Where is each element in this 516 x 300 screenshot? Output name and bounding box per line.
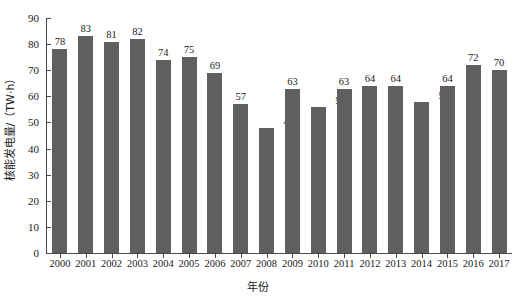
x-tick-label: 2014 xyxy=(411,258,432,269)
y-tick-mark xyxy=(47,44,51,45)
bar-value-label: 78 xyxy=(55,36,66,47)
bar-group: 63 xyxy=(285,18,300,253)
x-tick-label: 2012 xyxy=(359,258,380,269)
bar-group: 57 xyxy=(233,18,248,253)
y-tick-label: 20 xyxy=(28,195,39,207)
x-tick-mark xyxy=(447,254,448,258)
x-tick-mark xyxy=(86,254,87,258)
x-axis-spine xyxy=(46,253,512,254)
bar-value-label: 74 xyxy=(158,47,169,58)
bar-value-label: 70 xyxy=(494,57,505,68)
y-tick-label: 30 xyxy=(28,169,39,181)
bar-group: 74 xyxy=(156,18,171,253)
y-tick-label: 60 xyxy=(28,90,39,102)
bar-group: 81 xyxy=(104,18,119,253)
bar-value-label: 64 xyxy=(365,73,376,84)
x-tick-label: 2013 xyxy=(385,258,406,269)
bar-group: 70 xyxy=(492,18,507,253)
bar[interactable] xyxy=(285,89,300,254)
y-tick-mark xyxy=(47,201,51,202)
bar-value-label: 72 xyxy=(468,52,479,63)
x-tick-label: 2011 xyxy=(334,258,355,269)
bar-group: 82 xyxy=(130,18,145,253)
x-tick-mark xyxy=(344,254,345,258)
x-tick-mark xyxy=(215,254,216,258)
bar-value-label: 75 xyxy=(184,44,195,55)
bar[interactable] xyxy=(337,89,352,254)
y-tick-label: 50 xyxy=(28,116,39,128)
x-tick-mark xyxy=(473,254,474,258)
bar[interactable] xyxy=(78,36,93,253)
x-tick-label: 2008 xyxy=(256,258,277,269)
bar[interactable] xyxy=(156,60,171,253)
bar-value-label: 64 xyxy=(442,73,453,84)
bar[interactable] xyxy=(104,42,119,254)
x-tick-mark xyxy=(292,254,293,258)
bar[interactable] xyxy=(130,39,145,253)
bar[interactable] xyxy=(466,65,481,253)
y-axis-tick-labels: 0102030405060708090 xyxy=(16,0,43,253)
x-tick-mark xyxy=(60,254,61,258)
x-tick-label: 2000 xyxy=(49,258,70,269)
bar[interactable] xyxy=(52,49,67,253)
x-tick-mark xyxy=(137,254,138,258)
bar-value-label: 82 xyxy=(132,26,143,37)
bar-value-label: 57 xyxy=(236,91,247,102)
x-tick-label: 2009 xyxy=(282,258,303,269)
x-axis-title: 年份 xyxy=(0,278,516,294)
x-tick-mark xyxy=(267,254,268,258)
y-tick-mark xyxy=(47,175,51,176)
bar[interactable] xyxy=(311,107,326,253)
bar-group: 83 xyxy=(78,18,93,253)
bar[interactable] xyxy=(362,86,377,253)
bar[interactable] xyxy=(492,70,507,253)
x-tick-label: 2006 xyxy=(204,258,225,269)
y-tick-mark xyxy=(47,227,51,228)
bar-value-label: 64 xyxy=(391,73,402,84)
bar-value-label: 81 xyxy=(106,29,117,40)
bar-value-label: 63 xyxy=(339,76,350,87)
x-tick-label: 2002 xyxy=(101,258,122,269)
y-tick-label: 70 xyxy=(28,64,39,76)
bar-group: 64 xyxy=(362,18,377,253)
bar[interactable] xyxy=(233,104,248,253)
y-tick-mark xyxy=(47,70,51,71)
x-tick-label: 2007 xyxy=(230,258,251,269)
x-tick-label: 2010 xyxy=(308,258,329,269)
bar[interactable] xyxy=(414,102,429,253)
x-tick-mark xyxy=(189,254,190,258)
y-tick-label: 80 xyxy=(28,38,39,50)
y-tick-label: 90 xyxy=(28,12,39,24)
bar[interactable] xyxy=(440,86,455,253)
x-tick-mark xyxy=(241,254,242,258)
x-axis-tick-labels: 2000200120022003200420052006200720082009… xyxy=(47,258,512,274)
y-tick-mark xyxy=(47,253,51,254)
x-tick-label: 2003 xyxy=(127,258,148,269)
x-tick-label: 2004 xyxy=(153,258,174,269)
x-tick-mark xyxy=(370,254,371,258)
bar[interactable] xyxy=(182,57,197,253)
plot-area: 788381827475695748635663646458647270 xyxy=(47,18,512,253)
x-tick-label: 2001 xyxy=(75,258,96,269)
bar-group: 48 xyxy=(259,18,274,253)
x-tick-label: 2016 xyxy=(463,258,484,269)
bar-group: 78 xyxy=(52,18,67,253)
nuclear-power-generation-bar-chart: 核能发电量/（TW·h） 0102030405060708090 7883818… xyxy=(0,0,516,300)
y-tick-label: 0 xyxy=(34,247,40,259)
x-tick-label: 2005 xyxy=(179,258,200,269)
bar-value-label: 63 xyxy=(287,76,298,87)
bar[interactable] xyxy=(207,73,222,253)
x-tick-mark xyxy=(318,254,319,258)
y-tick-label: 40 xyxy=(28,143,39,155)
x-tick-mark xyxy=(163,254,164,258)
y-tick-mark xyxy=(47,149,51,150)
bar[interactable] xyxy=(259,128,274,253)
bar-group: 64 xyxy=(388,18,403,253)
bar-group: 63 xyxy=(337,18,352,253)
bar-value-label: 83 xyxy=(81,23,92,34)
x-tick-label: 2017 xyxy=(489,258,510,269)
x-tick-mark xyxy=(499,254,500,258)
bar[interactable] xyxy=(388,86,403,253)
x-tick-mark xyxy=(112,254,113,258)
x-tick-mark xyxy=(422,254,423,258)
